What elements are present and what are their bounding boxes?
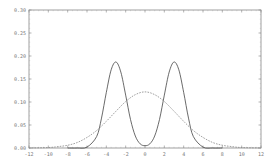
- x-tick-label: 0: [143, 151, 146, 157]
- axis-ticks: -12-10-8-6-4-20246810120.000.050.100.150…: [14, 7, 264, 157]
- y-tick-label: 0.20: [14, 53, 26, 59]
- y-tick-label: 0.05: [14, 122, 26, 128]
- y-tick-label: 0.25: [14, 30, 26, 36]
- line-chart: -12-10-8-6-4-20246810120.000.050.100.150…: [0, 0, 278, 166]
- series-dashed-line: [29, 92, 261, 148]
- x-tick-label: 2: [163, 151, 166, 157]
- series-lines: [29, 62, 261, 148]
- x-tick-label: -12: [24, 151, 33, 157]
- x-tick-label: -2: [123, 151, 129, 157]
- x-tick-label: 12: [258, 151, 264, 157]
- x-tick-label: 10: [239, 151, 245, 157]
- x-tick-label: -4: [103, 151, 109, 157]
- x-tick-label: 6: [201, 151, 204, 157]
- plot-frame: [29, 10, 261, 148]
- x-tick-label: -10: [44, 151, 53, 157]
- plot-border: [29, 10, 261, 148]
- y-tick-label: 0.00: [14, 145, 26, 151]
- y-tick-label: 0.30: [14, 7, 26, 13]
- x-tick-label: 8: [221, 151, 224, 157]
- x-tick-label: -6: [84, 151, 90, 157]
- x-tick-label: -8: [65, 151, 71, 157]
- y-tick-label: 0.10: [14, 99, 26, 105]
- y-tick-label: 0.15: [14, 76, 26, 82]
- x-tick-label: 4: [182, 151, 185, 157]
